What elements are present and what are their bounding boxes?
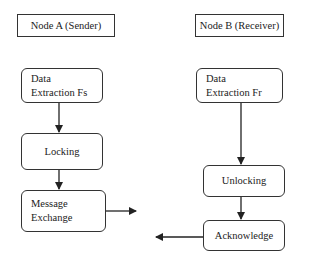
connector-layer — [0, 0, 310, 269]
